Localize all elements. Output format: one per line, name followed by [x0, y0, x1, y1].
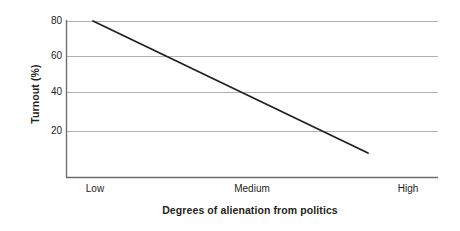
x-tick-label-medium: Medium [222, 183, 282, 195]
y-tick-label-40: 40 [40, 87, 62, 97]
chart-plot-area [0, 0, 460, 231]
x-tick-label-high: High [380, 183, 436, 195]
data-line-turnout [93, 21, 368, 153]
y-tick-label-20: 20 [40, 126, 62, 136]
y-tick-label-80: 80 [40, 16, 62, 26]
chart-figure: Turnout (%) 80 60 40 20 Low Medium High … [0, 0, 460, 231]
x-axis-title: Degrees of alienation from politics [60, 204, 440, 216]
x-tick-label-low: Low [66, 183, 124, 195]
y-tick-label-60: 60 [40, 51, 62, 61]
